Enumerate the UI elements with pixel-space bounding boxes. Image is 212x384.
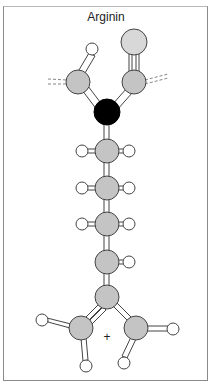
carbon-atom <box>95 212 119 236</box>
carboxyl-carbon <box>122 70 146 94</box>
carbon-atom <box>95 176 119 200</box>
hydrogen-atom <box>86 43 98 55</box>
hydrogen-atom <box>80 360 92 372</box>
dashed-bond-right <box>145 74 168 84</box>
hydrogen-atom <box>123 145 135 157</box>
arginine-molecule: .bond { fill: #fff; stroke: #444; stroke… <box>0 0 212 384</box>
guanidino-carbon <box>95 285 119 309</box>
bonds <box>47 52 168 361</box>
oxygen-atom-left <box>66 70 90 94</box>
nitrogen-atom <box>95 250 119 274</box>
hydrogen-atom <box>76 182 88 194</box>
hydrogen-atom <box>36 314 48 326</box>
hydrogen-atom <box>76 218 88 230</box>
hydrogen-atom <box>123 218 135 230</box>
hydrogen-atom <box>123 256 135 268</box>
hydrogen-atom <box>123 182 135 194</box>
hydrogen-atom <box>118 357 130 369</box>
nitrogen-atom <box>69 316 93 340</box>
positive-charge-label: + <box>103 330 110 344</box>
hydrogen-atom <box>167 323 179 335</box>
hydrogen-atom <box>76 145 88 157</box>
alpha-carbon <box>94 99 120 125</box>
oxygen-atom <box>121 29 147 55</box>
dashed-bond-left <box>48 79 67 84</box>
nitrogen-atom <box>124 316 148 340</box>
carbon-atom <box>95 139 119 163</box>
